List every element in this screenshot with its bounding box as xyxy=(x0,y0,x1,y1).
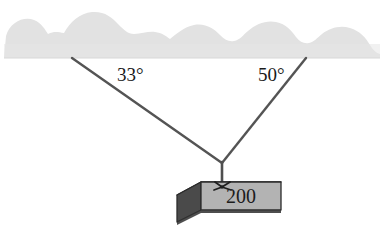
right-angle-label: 50° xyxy=(258,64,285,85)
physics-diagram-canvas: 33° 50° 200 xyxy=(0,0,384,249)
knot-center-dot xyxy=(220,185,224,189)
block-weight-label: 200 xyxy=(226,185,256,207)
ceiling-texture-band xyxy=(4,44,380,58)
diagram-svg: 33° 50° 200 xyxy=(0,0,384,249)
left-cable xyxy=(72,58,222,163)
block-bottom-shadow xyxy=(201,210,281,213)
left-angle-label: 33° xyxy=(117,64,144,85)
ceiling-group xyxy=(4,12,380,58)
